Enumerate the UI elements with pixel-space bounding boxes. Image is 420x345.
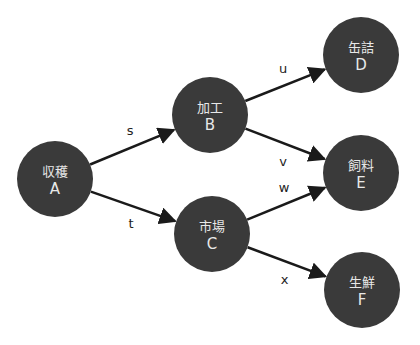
node-circle [323,135,399,211]
node-id: A [50,180,61,198]
flow-diagram: stuvwx 収穫A加工B市場C缶詰D飼料E生鮮F [0,0,420,345]
node-id: E [356,174,365,192]
edge-label-t: t [128,216,133,231]
node-name: 収穫 [42,164,68,179]
node-circle [172,77,248,153]
node-circle [174,196,250,272]
edge-label-u: u [279,61,287,76]
node-id: B [205,116,215,134]
node-name: 加工 [197,100,223,115]
node-name: 缶詰 [348,40,374,55]
node-D: 缶詰D [323,17,399,93]
node-circle [323,17,399,93]
node-E: 飼料E [323,135,399,211]
node-name: 飼料 [348,158,374,173]
node-B: 加工B [172,77,248,153]
node-id: D [355,56,367,74]
node-C: 市場C [174,196,250,272]
nodes-layer: 収穫A加工B市場C缶詰D飼料E生鮮F [17,17,400,328]
edge-label-w: w [279,180,290,195]
diagram-svg: stuvwx 収穫A加工B市場C缶詰D飼料E生鮮F [0,0,420,345]
edge-label-s: s [127,123,134,138]
node-A: 収穫A [17,141,93,217]
edge-label-v: v [279,154,287,169]
node-circle [17,141,93,217]
edge-label-x: x [281,272,289,287]
node-id: C [207,235,217,253]
node-id: F [358,291,367,309]
node-F: 生鮮F [324,252,400,328]
node-name: 市場 [199,219,225,234]
node-circle [324,252,400,328]
node-name: 生鮮 [349,275,375,290]
